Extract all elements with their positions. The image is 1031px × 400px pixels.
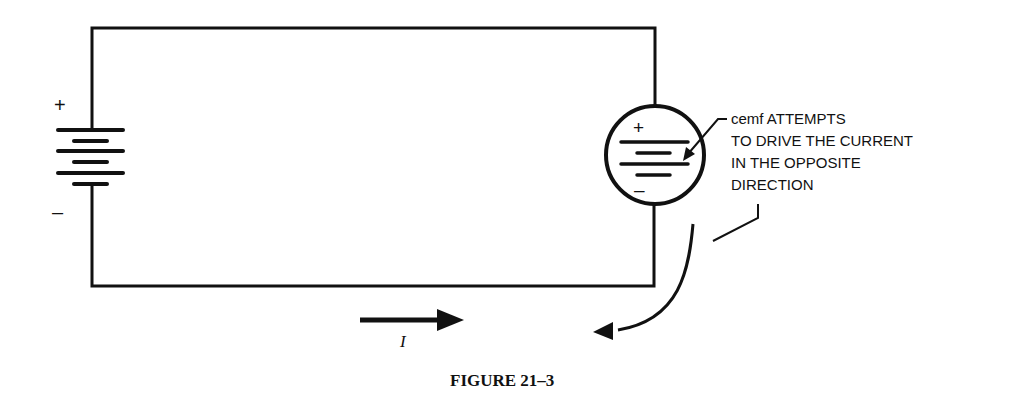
annotation-line-2: TO DRIVE THE CURRENT [731, 132, 913, 149]
battery-symbol [58, 130, 123, 184]
current-label: I [399, 332, 407, 351]
wire-left-top [92, 28, 655, 130]
wire-left-bottom [92, 186, 654, 286]
cemf-minus-label: – [634, 179, 645, 200]
figure-caption: FIGURE 21–3 [450, 371, 554, 390]
opposing-current-curved-arrow [593, 224, 693, 340]
annotation-line-3: IN THE OPPOSITE [731, 154, 861, 171]
annotation-line-4: DIRECTION [731, 176, 814, 193]
current-direction-arrow [360, 309, 464, 331]
battery-plus-label: + [54, 94, 66, 116]
circuit-wires [92, 28, 655, 286]
battery-minus-label: – [52, 201, 64, 223]
annotation-leader-tick [713, 204, 758, 241]
circuit-diagram: + – + – cemf ATTEMPTS TO DRIVE THE CURRE… [0, 0, 1031, 400]
annotation-text: cemf ATTEMPTS TO DRIVE THE CURRENT IN TH… [731, 110, 917, 193]
annotation-line-1: cemf ATTEMPTS [731, 110, 846, 127]
cemf-plus-label: + [633, 117, 644, 138]
